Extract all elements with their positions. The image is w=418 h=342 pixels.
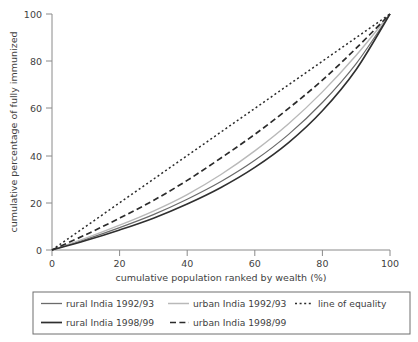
y-tick-labels: 0 20 40 60 80 100 [24,9,42,256]
x-tick-label-40: 40 [181,258,193,269]
data-series-layer [52,14,390,250]
x-tick-label-20: 20 [114,258,126,269]
legend-item-urban-india-1992-93[interactable]: urban India 1992/93 [168,298,287,309]
x-tick-marks [52,250,390,256]
x-tick-label-100: 100 [381,258,399,269]
y-tick-marks [46,14,52,250]
legend-label-rural-1992: rural India 1992/93 [66,298,154,309]
legend-item-rural-india-1992-93[interactable]: rural India 1992/93 [41,298,154,309]
y-tick-label-0: 0 [36,245,42,256]
legend-label-equality: line of equality [318,298,387,309]
series-line-line-of-equality [52,14,390,250]
chart-canvas: 0 20 40 60 80 100 0 20 40 60 80 100 cumu… [0,0,418,342]
y-tick-label-60: 60 [30,103,42,114]
y-axis-title: cumulative percentage of fully immunized [8,31,19,232]
x-tick-label-80: 80 [316,258,328,269]
lorenz-curve-figure: 0 20 40 60 80 100 0 20 40 60 80 100 cumu… [0,0,418,342]
y-tick-label-20: 20 [30,198,42,209]
x-axis-title: cumulative population ranked by wealth (… [115,272,326,283]
legend-item-line-of-equality[interactable]: line of equality [295,298,387,309]
legend-item-rural-india-1998-99[interactable]: rural India 1998/99 [41,317,154,328]
axes-group [46,14,390,256]
legend-label-rural-1998: rural India 1998/99 [66,317,154,328]
legend: rural India 1992/93 urban India 1992/93 … [33,292,410,334]
y-tick-label-100: 100 [24,9,42,20]
legend-label-urban-1992: urban India 1992/93 [193,298,287,309]
x-tick-labels: 0 20 40 60 80 100 [49,258,399,269]
y-tick-label-40: 40 [30,151,42,162]
x-tick-label-60: 60 [249,258,261,269]
legend-item-urban-india-1998-99[interactable]: urban India 1998/99 [170,317,287,328]
y-tick-label-80: 80 [30,56,42,67]
x-tick-label-0: 0 [49,258,55,269]
legend-label-urban-1998: urban India 1998/99 [193,317,287,328]
